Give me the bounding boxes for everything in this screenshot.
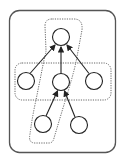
- node-mid-center: [53, 74, 70, 91]
- node-top: [53, 29, 70, 46]
- node-mid-right: [86, 73, 103, 90]
- edge-mid-right-to-top: [67, 45, 89, 74]
- edge-bottom-right-to-mid-center: [65, 91, 76, 117]
- node-bottom-right: [71, 117, 88, 134]
- diagram-canvas: [0, 0, 123, 162]
- edge-bottom-left-to-mid-center: [46, 91, 58, 116]
- edge-mid-left-to-top: [30, 45, 55, 74]
- node-mid-left: [18, 73, 35, 90]
- node-bottom-left: [35, 116, 52, 133]
